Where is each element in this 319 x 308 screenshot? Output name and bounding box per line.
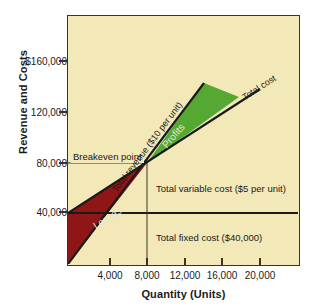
x-tick-mark-8000 [146,258,148,266]
x-tick-label-20000: 20,000 [245,270,276,281]
y-axis-title: Revenue and Costs [17,27,29,177]
x-tick-label-4000: 4,000 [97,270,122,281]
x-axis-title: Quantity (Units) [67,288,300,300]
total-variable-cost-label: Total variable cost ($5 per unit) [156,183,286,194]
x-tick-mark-4000 [109,258,111,266]
x-tick-label-12000: 12,000 [170,270,201,281]
y-tick-mark-80000 [59,162,67,164]
x-tick-mark-16000 [221,258,223,266]
plot-area: Breakeven point Total variable cost ($5 … [67,15,300,266]
breakeven-chart: Revenue and Costs $160,000 120,000 80,00… [0,0,319,308]
x-tick-label-16000: 16,000 [207,270,238,281]
x-tick-label-8000: 8,000 [134,270,159,281]
x-tick-mark-12000 [184,258,186,266]
x-tick-mark-20000 [259,258,261,266]
y-tick-mark-40000 [59,211,67,213]
y-tick-mark-120000 [59,111,67,113]
y-tick-mark-160000 [59,60,67,62]
total-fixed-cost-label: Total fixed cost ($40,000) [156,232,262,243]
